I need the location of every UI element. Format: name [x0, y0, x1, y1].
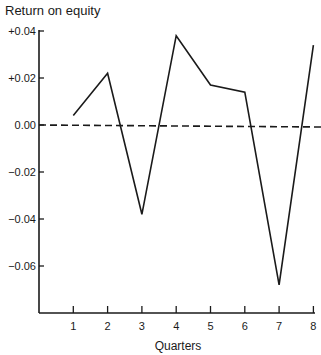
x-tick-label: 3	[139, 320, 145, 332]
y-tick-label: +0.02	[8, 72, 36, 84]
x-tick-label: 7	[276, 320, 282, 332]
y-tick-label: −0.04	[8, 213, 36, 225]
x-tick-label: 2	[105, 320, 111, 332]
x-axis: 12345678	[39, 306, 316, 332]
x-tick-label: 8	[310, 320, 316, 332]
y-axis: +0.04+0.020.00−0.02−0.04−0.06	[8, 25, 44, 313]
x-axis-label: Quarters	[155, 339, 202, 353]
data-series-line	[73, 36, 313, 285]
y-tick-label: −0.06	[8, 260, 36, 272]
x-tick-label: 5	[207, 320, 213, 332]
x-tick-label: 6	[242, 320, 248, 332]
line-chart: +0.04+0.020.00−0.02−0.04−0.06 12345678 Q…	[0, 0, 321, 355]
x-tick-label: 4	[173, 320, 179, 332]
y-tick-label: 0.00	[15, 119, 36, 131]
zero-reference-line	[39, 125, 321, 127]
y-tick-label: −0.02	[8, 166, 36, 178]
x-tick-label: 1	[70, 320, 76, 332]
y-tick-label: +0.04	[8, 25, 36, 37]
